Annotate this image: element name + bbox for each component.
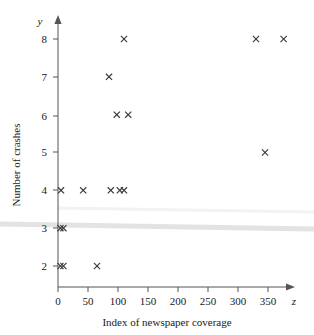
y-ticklabel-2: 2 (42, 260, 48, 272)
x-ticklabel-150: 150 (140, 295, 157, 307)
plot-svg: 8 7 6 5 4 3 2 y Number of crashes 0 50 1… (0, 0, 314, 335)
x-ticklabel-100: 100 (110, 295, 127, 307)
data-point (94, 263, 100, 269)
y-axis: 8 7 6 5 4 3 2 y Number of crashes (10, 15, 62, 287)
x-ticklabel-200: 200 (170, 295, 187, 307)
y-axis-variable-label: y (37, 15, 43, 27)
x-ticklabel-350: 350 (260, 295, 277, 307)
x-axis-variable-label: z (291, 295, 297, 307)
upper-faint-band (58, 208, 314, 212)
data-point (106, 74, 112, 80)
lower-gray-band (0, 224, 314, 229)
data-point (121, 187, 127, 193)
data-point (108, 187, 114, 193)
y-ticklabel-5: 5 (42, 146, 48, 158)
y-ticklabel-4: 4 (42, 184, 48, 196)
y-ticklabel-6: 6 (42, 110, 48, 122)
x-ticklabel-300: 300 (230, 295, 247, 307)
data-point (60, 263, 66, 269)
background-bands (0, 208, 314, 229)
data-point (125, 112, 131, 118)
data-point (114, 112, 120, 118)
y-axis-title: Number of crashes (10, 123, 22, 206)
data-point (80, 187, 86, 193)
x-ticklabel-0: 0 (55, 295, 61, 307)
data-point (281, 36, 287, 42)
y-ticklabel-3: 3 (42, 222, 48, 234)
scatter-plot-figure: 8 7 6 5 4 3 2 y Number of crashes 0 50 1… (0, 0, 314, 335)
y-ticklabel-8: 8 (42, 33, 48, 45)
x-ticklabel-50: 50 (83, 295, 95, 307)
data-point (58, 187, 64, 193)
data-point (262, 149, 268, 155)
y-axis-arrow (54, 15, 61, 24)
x-axis-arrow (286, 283, 295, 290)
x-axis-title: Index of newspaper coverage (102, 316, 231, 328)
x-ticklabel-250: 250 (200, 295, 217, 307)
y-ticklabel-7: 7 (42, 71, 48, 83)
x-axis: 0 50 100 150 200 250 300 350 z Index of … (55, 283, 297, 328)
data-point (253, 36, 259, 42)
data-point-group (57, 36, 286, 269)
data-point (121, 36, 127, 42)
